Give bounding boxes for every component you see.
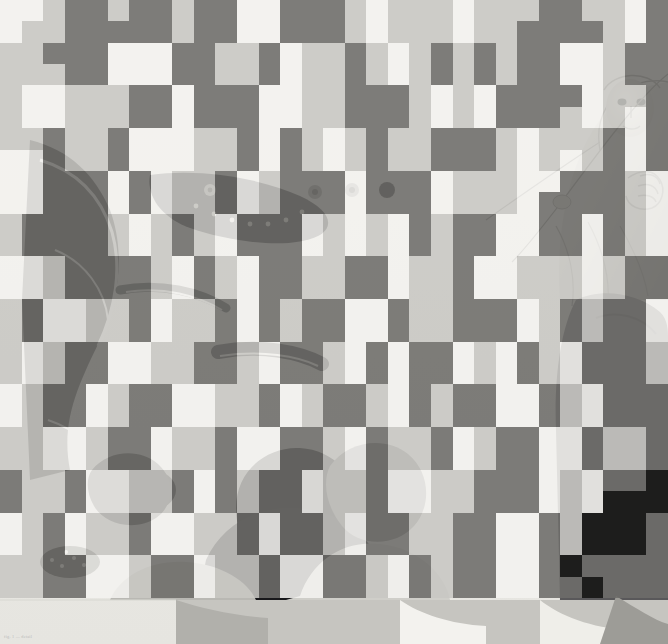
mosaic-cell: [560, 513, 582, 534]
mosaic-cell: [43, 192, 65, 213]
mosaic-cell: [431, 235, 453, 256]
mosaic-cell: [539, 128, 561, 149]
mosaic-cell: [323, 449, 345, 470]
mosaic-cell: [625, 235, 647, 256]
mosaic-cell: [43, 107, 65, 128]
mosaic-cell: [65, 85, 87, 106]
mosaic-cell: [108, 278, 130, 299]
mosaic-cell: [582, 214, 604, 235]
mosaic-cell: [453, 363, 475, 384]
mosaic-cell: [151, 491, 173, 512]
mosaic-cell: [302, 470, 324, 491]
mosaic-cell: [172, 214, 194, 235]
mosaic-cell: [259, 513, 281, 534]
mosaic-cell: [388, 534, 410, 555]
mosaic-cell: [474, 85, 496, 106]
mosaic-cell: [323, 513, 345, 534]
mosaic-cell: [388, 85, 410, 106]
mosaic-cell: [517, 278, 539, 299]
mosaic-cell: [646, 192, 668, 213]
mosaic-cell: [108, 470, 130, 491]
mosaic-cell: [65, 192, 87, 213]
mosaic-cell: [603, 278, 625, 299]
mosaic-cell: [151, 43, 173, 64]
mosaic-cell: [603, 534, 625, 555]
mosaic-cell: [0, 235, 22, 256]
mosaic-cell: [646, 235, 668, 256]
mosaic-cell: [151, 342, 173, 363]
mosaic-cell: [43, 449, 65, 470]
mosaic-cell: [388, 427, 410, 448]
mosaic-cell: [129, 107, 151, 128]
mosaic-cell: [108, 320, 130, 341]
mosaic-cell: [409, 128, 431, 149]
mosaic-cell: [151, 406, 173, 427]
mosaic-cell: [517, 406, 539, 427]
mosaic-cell: [280, 555, 302, 576]
mosaic-cell: [474, 192, 496, 213]
mosaic-cell: [539, 43, 561, 64]
mosaic-cell: [215, 363, 237, 384]
mosaic-cell: [215, 491, 237, 512]
mosaic-cell: [517, 150, 539, 171]
mosaic-cell: [496, 470, 518, 491]
mosaic-cell: [215, 342, 237, 363]
mosaic-cell: [582, 491, 604, 512]
mosaic-cell: [237, 214, 259, 235]
mosaic-cell: [496, 85, 518, 106]
mosaic-cell: [625, 64, 647, 85]
mosaic-cell: [345, 128, 367, 149]
mosaic-cell: [646, 342, 668, 363]
mosaic-cell: [65, 363, 87, 384]
mosaic-cell: [582, 320, 604, 341]
mosaic-cell: [388, 107, 410, 128]
mosaic-cell: [409, 342, 431, 363]
mosaic-cell: [215, 384, 237, 405]
mosaic-cell: [474, 384, 496, 405]
mosaic-cell: [345, 513, 367, 534]
mosaic-cell: [388, 384, 410, 405]
mosaic-cell: [474, 256, 496, 277]
mosaic-cell: [517, 384, 539, 405]
mosaic-cell: [496, 320, 518, 341]
mosaic-cell: [259, 64, 281, 85]
mosaic-cell: [496, 256, 518, 277]
mosaic-cell: [582, 192, 604, 213]
mosaic-cell: [409, 363, 431, 384]
mosaic-cell: [366, 577, 388, 598]
mosaic-cell: [22, 0, 44, 21]
mosaic-cell: [151, 128, 173, 149]
mosaic-cell: [280, 107, 302, 128]
mosaic-cell: [0, 577, 22, 598]
mosaic-cell: [345, 192, 367, 213]
mosaic-cell: [388, 21, 410, 42]
mosaic-cell: [22, 64, 44, 85]
mosaic-cell: [560, 320, 582, 341]
mosaic-cell: [323, 406, 345, 427]
mosaic-cell: [151, 0, 173, 21]
mosaic-cell: [237, 0, 259, 21]
mosaic-cell: [474, 278, 496, 299]
mosaic-cell: [388, 513, 410, 534]
mosaic-cell: [22, 128, 44, 149]
mosaic-cell: [215, 0, 237, 21]
mosaic-cell: [43, 256, 65, 277]
mosaic-cell: [215, 214, 237, 235]
mosaic-cell: [65, 342, 87, 363]
mosaic-cell: [517, 171, 539, 192]
mosaic-cell: [194, 555, 216, 576]
mosaic-cell: [431, 21, 453, 42]
mosaic-cell: [453, 470, 475, 491]
mosaic-cell: [388, 235, 410, 256]
mosaic-cell: [345, 384, 367, 405]
mosaic-cell: [0, 406, 22, 427]
mosaic-cell: [431, 577, 453, 598]
mosaic-cell: [388, 449, 410, 470]
mosaic-cell: [86, 214, 108, 235]
mosaic-cell: [259, 491, 281, 512]
mosaic-cell: [129, 192, 151, 213]
mosaic-cell: [625, 555, 647, 576]
mosaic-cell: [409, 214, 431, 235]
mosaic-cell: [431, 384, 453, 405]
mosaic-cell: [65, 43, 87, 64]
